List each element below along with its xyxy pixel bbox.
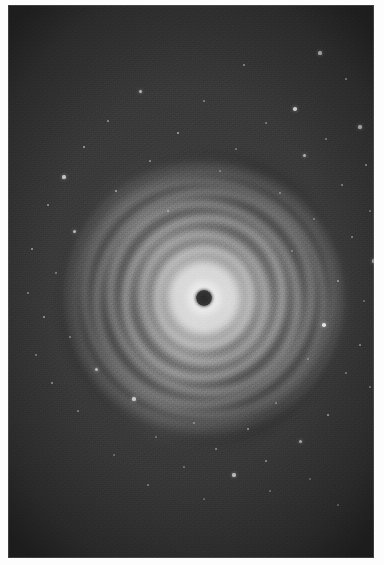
photo-frame: Face-on circumstellar disk showing multi… [0, 0, 384, 565]
sky-plate [8, 5, 374, 558]
dark-core [196, 290, 212, 306]
image-title: Concentric ringed protoplanetary disk [0, 0, 1, 1]
image-caption: Face-on circumstellar disk showing multi… [0, 0, 1, 1]
